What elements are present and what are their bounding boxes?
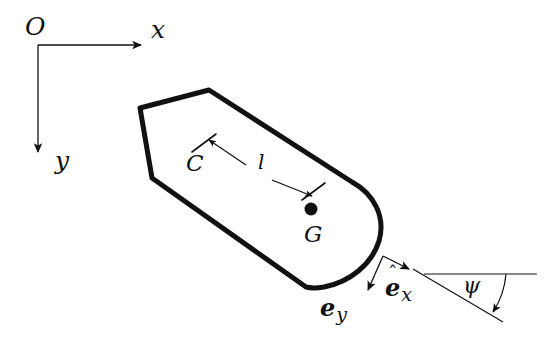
- body-center-label: C: [186, 152, 204, 175]
- kinematics-figure: O x y C G l ey ex ψ: [0, 0, 549, 344]
- center-of-gravity-label: G: [304, 223, 322, 246]
- origin-label: O: [25, 14, 46, 39]
- x-axis-label: x: [151, 17, 165, 42]
- e-y-subscript: y: [336, 303, 347, 325]
- distance-label: l: [258, 152, 264, 172]
- inertial-frame-axes: [38, 45, 141, 152]
- psi-angle-arc: [493, 274, 506, 312]
- e-x-symbol: e: [385, 276, 400, 300]
- e-x-vector-label: ex: [385, 276, 411, 300]
- y-axis-label: y: [55, 148, 69, 173]
- vessel-hull: [140, 90, 381, 288]
- heading-angle-label: ψ: [463, 275, 480, 297]
- e-y-vector-label: ey: [320, 296, 346, 320]
- psi-body-axis-line: [413, 269, 503, 322]
- center-of-gravity-dot: [305, 203, 318, 216]
- hull-outline-path: [140, 90, 381, 288]
- e-x-subscript: x: [401, 283, 412, 305]
- e-y-symbol: e: [320, 296, 335, 320]
